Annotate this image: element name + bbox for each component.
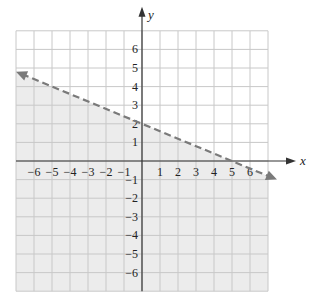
y-tick-label: 6 — [132, 42, 138, 56]
y-tick-label: −5 — [125, 247, 138, 261]
x-tick-label: −4 — [64, 165, 77, 179]
x-axis-label: x — [299, 153, 306, 168]
y-axis-label: y — [146, 7, 154, 22]
y-tick-label: −4 — [125, 228, 138, 242]
y-tick-label: 1 — [132, 135, 138, 149]
y-tick-label: 4 — [132, 80, 138, 94]
x-axis-arrow-icon — [286, 158, 296, 165]
x-tick-label: 4 — [211, 165, 217, 179]
y-tick-label: 5 — [132, 61, 138, 75]
graph-svg: xy−6−5−4−3−2−1123456654321−1−2−3−4−5−6 — [0, 0, 309, 305]
y-tick-label: 2 — [132, 117, 138, 131]
x-tick-label: −5 — [46, 165, 59, 179]
x-tick-label: 3 — [193, 165, 199, 179]
x-tick-label: −2 — [100, 165, 113, 179]
y-tick-label: 3 — [132, 98, 138, 112]
inequality-graph: xy−6−5−4−3−2−1123456654321−1−2−3−4−5−6 — [0, 0, 309, 305]
x-tick-label: −3 — [82, 165, 95, 179]
x-tick-label: 2 — [175, 165, 181, 179]
y-tick-label: −6 — [125, 266, 138, 280]
y-tick-label: −1 — [125, 173, 138, 187]
x-tick-label: −6 — [28, 165, 41, 179]
y-tick-label: −3 — [125, 210, 138, 224]
x-tick-label: 5 — [229, 165, 235, 179]
x-tick-label: 1 — [157, 165, 163, 179]
y-axis-arrow-icon — [139, 7, 146, 17]
y-tick-label: −2 — [125, 191, 138, 205]
